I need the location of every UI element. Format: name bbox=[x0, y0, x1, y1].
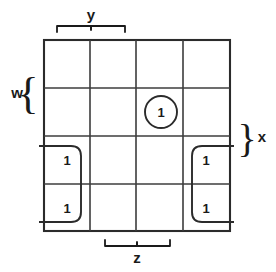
cell-value-r2c3: 1 bbox=[202, 153, 209, 168]
kmap-row-dividers bbox=[44, 88, 230, 184]
variable-label-z: z bbox=[133, 249, 141, 266]
karnaugh-map-diagram: y 1 1 1 1 1 { w } x bbox=[0, 0, 276, 272]
variable-label-x: x bbox=[258, 128, 267, 145]
x-brace-icon: } bbox=[237, 116, 256, 161]
cell-value-r3c3: 1 bbox=[202, 201, 209, 216]
cell-value-r3c0: 1 bbox=[63, 201, 70, 216]
y-bracket bbox=[57, 26, 125, 32]
variable-label-y: y bbox=[87, 6, 96, 23]
cell-value-r2c0: 1 bbox=[63, 153, 70, 168]
kmap-canvas: y 1 1 1 1 1 { w } x bbox=[0, 0, 276, 272]
cell-value-r1c2: 1 bbox=[157, 105, 164, 120]
z-bracket bbox=[105, 240, 170, 246]
variable-label-w: w bbox=[10, 84, 23, 101]
